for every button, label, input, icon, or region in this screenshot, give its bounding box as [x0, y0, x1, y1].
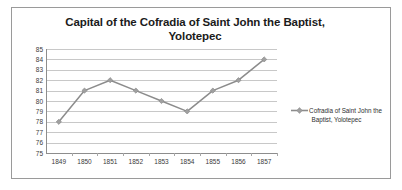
plot-area — [46, 49, 277, 153]
x-axis-tick-mark — [72, 153, 73, 156]
chart-title: Capital of the Cofradia of Saint John th… — [30, 15, 360, 43]
y-axis-tick-label: 78 — [27, 118, 43, 125]
y-axis-tick-labels: 8584838281807978777675 — [25, 49, 43, 153]
y-axis-tick-label: 79 — [27, 108, 43, 115]
x-axis-tick-mark — [251, 153, 252, 156]
x-axis-tick-label: 1857 — [247, 158, 281, 165]
series-polyline — [59, 59, 264, 121]
chart-legend: Cofradia of Saint John the Baptist, Yolo… — [288, 107, 385, 124]
chart-frame: Capital of the Cofradia of Saint John th… — [11, 7, 391, 179]
x-axis-tick-mark — [277, 153, 278, 156]
x-axis-tick-mark — [200, 153, 201, 156]
legend-label-cofradia: Cofradia of Saint John the Baptist, Yolo… — [309, 107, 382, 123]
chart-title-line-2: Yolotepec — [30, 29, 360, 43]
series-line-cofradia — [46, 49, 277, 153]
y-axis-tick-label: 80 — [27, 98, 43, 105]
x-axis-tick-labels: 184918501851185218531854185518561857 — [46, 158, 277, 170]
y-axis-tick-label: 77 — [27, 129, 43, 136]
chart-canvas: Capital of the Cofradia of Saint John th… — [12, 8, 392, 180]
x-axis-tick-mark — [97, 153, 98, 156]
y-axis-tick-label: 83 — [27, 66, 43, 73]
x-axis-tick-mark — [123, 153, 124, 156]
y-axis-tick-label: 81 — [27, 87, 43, 94]
legend-item-cofradia: Cofradia of Saint John the Baptist, Yolo… — [288, 107, 385, 124]
y-axis-tick-label: 82 — [27, 77, 43, 84]
chart-title-line-1: Capital of the Cofradia of Saint John th… — [30, 15, 360, 29]
x-axis-tick-mark — [174, 153, 175, 156]
data-point-marker — [159, 98, 164, 103]
data-point-marker — [133, 88, 138, 93]
legend-line-marker-icon — [291, 107, 308, 114]
y-axis-tick-label: 85 — [27, 46, 43, 53]
y-axis-tick-label: 76 — [27, 139, 43, 146]
x-axis-line — [46, 153, 278, 154]
y-axis-tick-label: 75 — [27, 150, 43, 157]
y-axis-tick-label: 84 — [27, 56, 43, 63]
x-axis-tick-mark — [226, 153, 227, 156]
x-axis-tick-mark — [149, 153, 150, 156]
data-point-marker — [108, 78, 113, 83]
